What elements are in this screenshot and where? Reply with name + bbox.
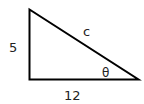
side-label-vertical: 5 — [9, 40, 17, 55]
right-triangle — [30, 10, 139, 80]
triangle-diagram: 5 12 c θ — [0, 0, 144, 104]
hypotenuse-label: c — [83, 24, 90, 39]
angle-label: θ — [102, 66, 109, 80]
side-label-horizontal: 12 — [64, 88, 81, 103]
